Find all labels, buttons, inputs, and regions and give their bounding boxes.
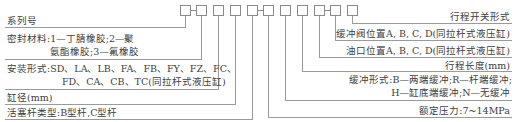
leader-line xyxy=(201,16,202,60)
label-port: 油口位置A, B, C, D(同拉杆式液压缸) xyxy=(346,45,510,56)
code-box-1 xyxy=(180,5,191,16)
leader-line xyxy=(302,71,512,72)
leader-line xyxy=(5,27,186,28)
code-box-10 xyxy=(330,5,341,16)
leader-line xyxy=(5,119,253,120)
code-box-6 xyxy=(263,5,274,16)
label-cushion-type: 缓冲形式:B—两端缓冲;R—杆端缓冲; xyxy=(349,74,512,85)
leader-line xyxy=(302,16,303,72)
leader-line xyxy=(285,100,512,101)
leader-line xyxy=(5,59,202,60)
label-stroke: 行程长度(mm) xyxy=(445,60,510,71)
leader-line xyxy=(268,16,269,118)
code-box-7 xyxy=(280,5,291,16)
leader-line xyxy=(268,117,512,118)
code-box-5 xyxy=(247,5,258,16)
code-box-4 xyxy=(230,5,241,16)
leader-line xyxy=(319,57,512,58)
label-cushion-type-cont: H—缸底端缓冲;N—无缓冲 xyxy=(391,87,510,98)
label-mounting-cont: FD、CA、CB、TC(同拉杆式液压缸) xyxy=(62,76,226,87)
label-switch: 行程开关形式 xyxy=(450,11,510,22)
leader-line xyxy=(252,16,253,120)
leader-line xyxy=(352,23,512,24)
leader-line xyxy=(5,104,236,105)
label-seal-material: 密封材料:1—丁腈橡胶;2—聚 xyxy=(7,33,135,44)
leader-line xyxy=(319,16,320,58)
code-box-8 xyxy=(297,5,308,16)
leader-line xyxy=(285,16,286,101)
label-series: 系列号 xyxy=(7,15,37,26)
leader-line xyxy=(335,40,512,41)
label-cushion-valve: 缓冲阀位置A, B, C, D(同拉杆式液压缸) xyxy=(336,28,510,39)
leader-line xyxy=(235,16,236,105)
label-pressure: 额定压力:7~14MPa xyxy=(419,105,510,116)
code-box-11 xyxy=(347,5,358,16)
leader-line xyxy=(5,89,219,90)
label-bore: 缸径(mm) xyxy=(7,92,52,103)
code-box-9 xyxy=(314,5,325,16)
code-box-2 xyxy=(196,5,207,16)
code-box-3 xyxy=(213,5,224,16)
label-seal-material-cont: 氨酯橡胶;3—氟橡胶 xyxy=(50,46,139,57)
label-mounting: 安装形式:SD、LA、LB、FA、FB、FY、FZ、FC、 xyxy=(7,63,237,74)
label-rod-type: 活塞杆类型:B型杆,C型杆 xyxy=(7,107,117,118)
